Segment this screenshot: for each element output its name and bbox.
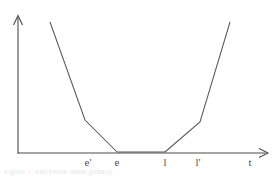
figure-caption-fragment: Figure 1: Piecewise linear penalty — [4, 170, 113, 176]
x-tick-label-e: e — [115, 157, 120, 168]
plot-canvas — [0, 0, 275, 178]
x-axis-label: t — [248, 157, 251, 168]
figure-container: e' e l l' t Figure 1: Piecewise linear p… — [0, 0, 275, 178]
earliness-penalty-curve — [50, 22, 117, 152]
tardiness-penalty-curve — [165, 22, 230, 152]
x-tick-label-e-prime: e' — [85, 157, 92, 168]
x-tick-label-l: l — [163, 157, 166, 168]
caption-strip: Figure 1: Piecewise linear penalty — [0, 170, 275, 178]
x-tick-label-l-prime: l' — [195, 157, 200, 168]
